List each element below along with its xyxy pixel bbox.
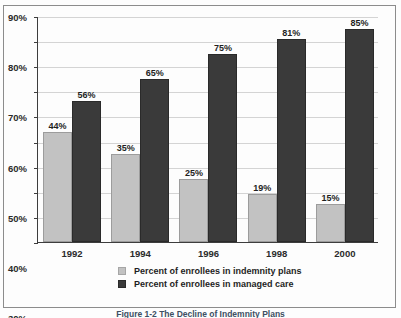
- legend-swatch-icon: [118, 267, 126, 275]
- y-axis-tick: 0%: [34, 243, 38, 244]
- figure-caption: Figure 1-2 The Decline of Indemnity Plan…: [0, 309, 401, 318]
- bar-value-label: 85%: [350, 18, 368, 28]
- bar-value-label: 19%: [253, 183, 271, 193]
- legend-item[interactable]: Percent of enrollees in indemnity plans: [118, 264, 302, 277]
- legend-label: Percent of enrollees in managed care: [134, 279, 294, 289]
- y-axis-tick-label: 70%: [8, 112, 27, 123]
- x-axis-tick-label: 1992: [62, 248, 83, 259]
- bar-group: 44%56%1992: [38, 17, 106, 242]
- bar[interactable]: 65%: [140, 79, 169, 242]
- figure-container: 0%10%20%30%40%50%60%70%80%90%44%56%19923…: [0, 0, 401, 318]
- bar-group: 25%75%1996: [174, 17, 242, 242]
- legend-label: Percent of enrollees in indemnity plans: [134, 266, 302, 276]
- y-axis-tick-label: 90%: [8, 12, 27, 23]
- bar-value-label: 56%: [78, 90, 96, 100]
- bar-value-label: 25%: [185, 168, 203, 178]
- bar[interactable]: 35%: [111, 154, 140, 242]
- x-axis-tick-label: 1994: [130, 248, 151, 259]
- bar[interactable]: 85%: [345, 29, 374, 242]
- plot-area: 0%10%20%30%40%50%60%70%80%90%44%56%19923…: [37, 17, 378, 243]
- bar-value-label: 44%: [49, 121, 67, 131]
- x-axis-tick-label: 1996: [198, 248, 219, 259]
- y-axis-tick-label: 40%: [8, 263, 27, 274]
- bar[interactable]: 15%: [316, 204, 345, 242]
- bar-value-label: 65%: [146, 68, 164, 78]
- bar[interactable]: 19%: [248, 194, 277, 242]
- bar-group: 19%81%1998: [243, 17, 311, 242]
- bar[interactable]: 75%: [208, 54, 237, 242]
- y-axis-tick-label: 50%: [8, 212, 27, 223]
- bar[interactable]: 81%: [277, 39, 306, 242]
- bar-value-label: 35%: [117, 143, 135, 153]
- chart-legend: Percent of enrollees in indemnity plansP…: [118, 264, 302, 290]
- x-axis-tick-label: 1998: [266, 248, 287, 259]
- legend-item[interactable]: Percent of enrollees in managed care: [118, 277, 302, 290]
- y-axis-tick-label: 80%: [8, 62, 27, 73]
- bar-value-label: 75%: [214, 43, 232, 53]
- x-axis-tick-label: 2000: [334, 248, 355, 259]
- bar-value-label: 15%: [321, 193, 339, 203]
- bar-value-label: 81%: [282, 28, 300, 38]
- bar[interactable]: 44%: [43, 132, 72, 242]
- bar[interactable]: 56%: [72, 101, 101, 242]
- y-axis-tick-label: 60%: [8, 162, 27, 173]
- legend-swatch-icon: [118, 280, 126, 288]
- bar-group: 15%85%2000: [311, 17, 379, 242]
- bar-group: 35%65%1994: [106, 17, 174, 242]
- bar[interactable]: 25%: [179, 179, 208, 242]
